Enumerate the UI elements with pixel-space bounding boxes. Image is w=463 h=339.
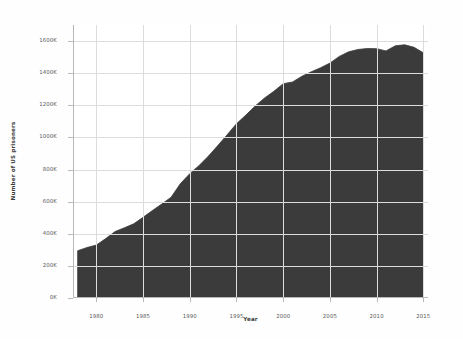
y-tick-mark <box>68 298 73 299</box>
y-tick-label-text: 1600K <box>39 37 57 43</box>
y-tick-label-text: 1200K <box>39 101 57 107</box>
x-tick-mark <box>330 298 331 302</box>
y-tick-label: 1400K <box>0 69 65 77</box>
gridline-vertical <box>236 25 237 298</box>
y-tick-label-text: 200K <box>43 262 57 268</box>
y-tick-label-text: 400K <box>43 230 57 236</box>
gridline-vertical <box>143 25 144 298</box>
gridline-horizontal <box>73 41 428 42</box>
x-tick-mark <box>283 298 284 302</box>
x-axis-title: Year <box>73 316 428 322</box>
y-tick-mark <box>68 170 73 171</box>
gridline-vertical <box>190 25 191 298</box>
y-tick-mark <box>68 41 73 42</box>
x-tick-mark <box>236 298 237 302</box>
y-tick-label-text: 1000K <box>39 133 57 139</box>
y-tick-label: 1600K <box>0 37 65 45</box>
y-tick-label: 400K <box>0 230 65 238</box>
gridline-vertical <box>283 25 284 298</box>
y-tick-mark <box>68 105 73 106</box>
y-tick-label-text: 600K <box>43 198 57 204</box>
y-tick-mark <box>68 73 73 74</box>
y-axis-line <box>73 25 74 298</box>
y-tick-mark <box>68 137 73 138</box>
x-tick-mark <box>143 298 144 302</box>
x-tick-mark <box>377 298 378 302</box>
y-tick-label-text: 800K <box>43 166 57 172</box>
x-tick-mark <box>190 298 191 302</box>
gridline-horizontal <box>73 234 428 235</box>
x-axis-line <box>73 297 428 298</box>
y-tick-mark <box>68 234 73 235</box>
area-series <box>73 25 428 298</box>
x-tick-mark <box>423 298 424 302</box>
y-tick-label-text: 1400K <box>39 69 57 75</box>
gridline-horizontal <box>73 137 428 138</box>
gridline-horizontal <box>73 105 428 106</box>
y-tick-mark <box>68 266 73 267</box>
y-tick-label: 0K <box>0 294 65 302</box>
plot-area <box>73 25 428 298</box>
y-axis-title: Number of US prisoners <box>10 106 16 216</box>
gridline-vertical <box>96 25 97 298</box>
gridline-horizontal <box>73 170 428 171</box>
gridline-vertical <box>377 25 378 298</box>
area-fill <box>78 45 424 298</box>
gridline-horizontal <box>73 266 428 267</box>
gridline-vertical <box>423 25 424 298</box>
gridline-horizontal <box>73 202 428 203</box>
gridline-horizontal <box>73 73 428 74</box>
chart-figure: 0K200K400K600K800K1000K1200K1400K1600K 1… <box>0 0 463 339</box>
y-tick-label-text: 0K <box>50 294 57 300</box>
x-tick-mark <box>96 298 97 302</box>
gridline-vertical <box>330 25 331 298</box>
y-tick-label: 200K <box>0 262 65 270</box>
y-tick-mark <box>68 202 73 203</box>
